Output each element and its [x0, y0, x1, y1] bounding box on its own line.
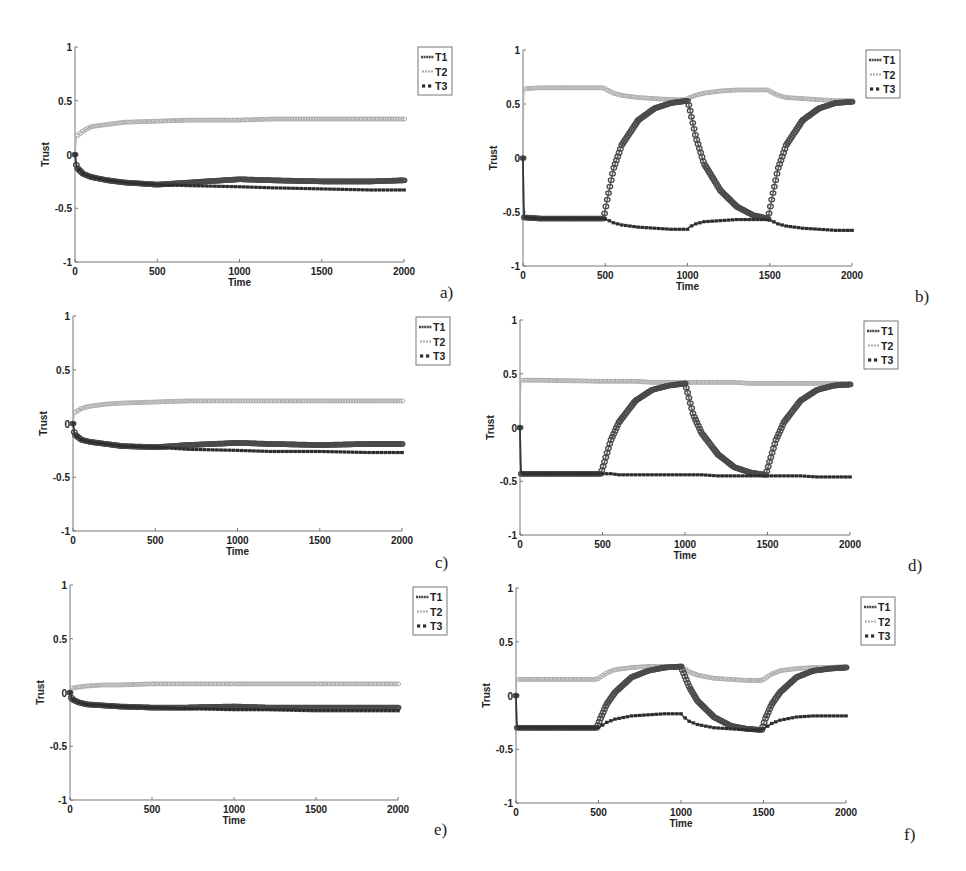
- data-marker: [222, 178, 228, 182]
- data-marker: [148, 445, 154, 449]
- data-marker: [332, 705, 338, 709]
- legend-box: [866, 50, 900, 98]
- data-marker: [265, 117, 270, 121]
- data-marker: [607, 379, 612, 383]
- data-marker: [214, 178, 220, 182]
- data-marker: [773, 437, 779, 441]
- data-marker: [789, 679, 795, 683]
- data-marker: [81, 172, 85, 175]
- data-marker: [525, 472, 531, 476]
- data-marker: [633, 398, 639, 402]
- data-marker: [121, 444, 125, 447]
- data-marker: [233, 118, 238, 122]
- data-marker: [694, 137, 700, 141]
- data-marker: [286, 709, 290, 712]
- data-marker: [753, 727, 759, 731]
- data-marker: [626, 379, 631, 383]
- data-marker: [176, 399, 181, 403]
- data-marker: [244, 705, 250, 709]
- data-marker: [315, 443, 321, 447]
- data-marker: [294, 399, 299, 403]
- data-marker: [720, 456, 726, 460]
- data-marker: [606, 670, 611, 674]
- data-marker: [735, 466, 741, 470]
- data-marker: [748, 727, 754, 731]
- data-marker: [228, 708, 232, 711]
- data-marker: [545, 677, 550, 681]
- data-marker: [846, 382, 852, 386]
- data-marker: [542, 217, 546, 220]
- data-marker: [135, 181, 141, 185]
- series-line: [516, 667, 846, 730]
- data-marker: [195, 442, 201, 446]
- data-marker: [317, 117, 322, 121]
- data-marker: [73, 686, 78, 690]
- data-marker: [283, 682, 288, 686]
- data-marker: [327, 443, 333, 447]
- data-marker: [709, 712, 715, 716]
- series-t2: [67, 682, 400, 695]
- data-marker: [114, 704, 120, 708]
- x-tick-label: 2000: [839, 539, 862, 550]
- data-marker: [843, 664, 848, 668]
- data-marker: [557, 726, 563, 730]
- data-marker: [330, 705, 336, 709]
- data-marker: [267, 117, 272, 121]
- data-marker: [192, 180, 198, 184]
- data-marker: [335, 709, 339, 712]
- data-marker: [698, 702, 704, 706]
- data-marker: [372, 682, 377, 686]
- data-marker: [293, 450, 297, 453]
- data-marker: [325, 682, 330, 686]
- data-marker: [538, 472, 544, 476]
- data-marker: [532, 216, 538, 220]
- data-marker: [383, 705, 389, 709]
- data-marker: [270, 117, 275, 121]
- data-marker: [126, 705, 132, 709]
- series-t1: [520, 99, 855, 221]
- data-marker: [530, 472, 536, 476]
- data-marker: [719, 219, 723, 222]
- data-marker: [238, 177, 244, 181]
- data-marker: [79, 170, 85, 174]
- data-marker: [803, 116, 809, 120]
- data-marker: [834, 99, 839, 103]
- data-marker: [699, 92, 704, 96]
- data-marker: [304, 187, 308, 190]
- data-marker: [703, 675, 708, 679]
- data-marker: [124, 705, 130, 709]
- data-marker: [134, 401, 139, 405]
- data-marker: [78, 437, 84, 441]
- data-marker: [647, 96, 652, 100]
- data-marker: [264, 178, 270, 182]
- data-marker: [769, 672, 774, 676]
- data-marker: [539, 86, 544, 90]
- data-marker: [769, 701, 775, 705]
- data-marker: [96, 441, 100, 444]
- data-marker: [692, 721, 696, 724]
- data-marker: [95, 176, 101, 180]
- data-marker: [227, 441, 233, 445]
- data-marker: [81, 406, 86, 410]
- data-marker: [373, 188, 377, 191]
- data-marker: [282, 442, 288, 446]
- data-marker: [171, 181, 177, 185]
- data-marker: [335, 705, 341, 709]
- data-marker: [713, 90, 718, 94]
- data-marker: [834, 383, 840, 387]
- data-marker: [301, 682, 306, 686]
- data-marker: [808, 392, 814, 396]
- data-marker: [645, 664, 650, 668]
- data-marker: [156, 445, 162, 449]
- data-marker: [649, 226, 653, 229]
- data-marker: [332, 188, 336, 191]
- data-marker: [136, 120, 141, 124]
- data-marker: [218, 441, 224, 445]
- data-marker: [764, 216, 770, 220]
- legend-label: T3: [878, 630, 890, 642]
- data-marker: [344, 442, 350, 446]
- data-marker: [287, 442, 293, 446]
- data-marker: [84, 439, 88, 442]
- data-marker: [131, 181, 135, 184]
- data-marker: [710, 380, 715, 384]
